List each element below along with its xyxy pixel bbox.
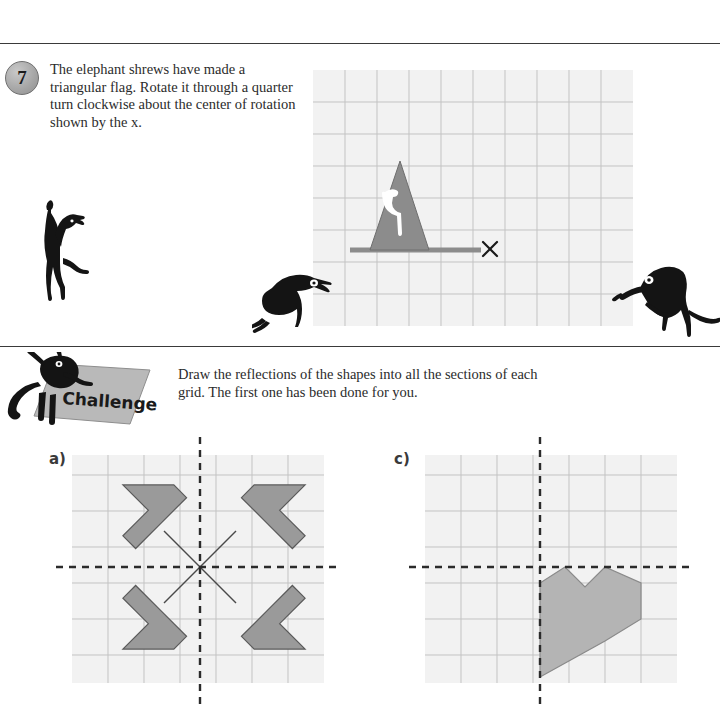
arrow-shape-top-left xyxy=(97,459,186,548)
worksheet-page: 7 The elephant shrews have made a triang… xyxy=(0,0,720,719)
grid-lines xyxy=(313,70,633,326)
reflection-grid-a[interactable] xyxy=(72,455,324,683)
part-label-c: c) xyxy=(394,450,410,468)
shrew-standing-illustration xyxy=(33,196,95,326)
top-rule xyxy=(0,43,720,44)
arrow-shape-bottom-left xyxy=(97,585,186,674)
question-number-badge: 7 xyxy=(5,61,39,95)
challenge-banner: Challenge xyxy=(2,352,182,432)
middle-rule xyxy=(0,346,720,347)
arrow-shape-top-right xyxy=(241,459,330,548)
question-number-label: 7 xyxy=(17,67,27,89)
arrow-shape-bottom-right xyxy=(241,585,330,674)
triangular-flag xyxy=(370,161,429,250)
question-text: The elephant shrews have made a triangul… xyxy=(50,61,300,131)
reflection-grid-c[interactable] xyxy=(425,455,677,683)
rotation-grid[interactable] xyxy=(313,70,633,326)
heart-shape xyxy=(540,567,641,677)
shrew-right-illustration xyxy=(607,262,720,340)
part-label-a: a) xyxy=(49,450,66,468)
shrew-left-illustration xyxy=(252,266,347,334)
center-of-rotation-marker xyxy=(483,242,497,256)
challenge-text: Draw the reflections of the shapes into … xyxy=(178,366,538,401)
